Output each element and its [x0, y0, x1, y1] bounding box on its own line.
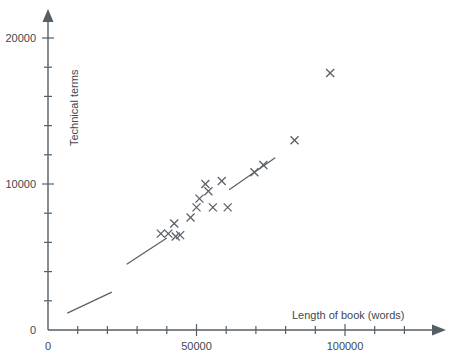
trend-line-segments	[67, 158, 275, 313]
axes-group	[43, 9, 447, 336]
trend-line	[67, 292, 112, 313]
data-point	[218, 177, 226, 185]
data-point	[204, 187, 212, 195]
data-point	[187, 214, 195, 222]
data-point	[224, 203, 232, 211]
y-tick-label: 20000	[5, 32, 36, 44]
y-tick-label: 10000	[5, 178, 36, 190]
x-tick-label: 50000	[181, 340, 212, 352]
data-point	[193, 203, 201, 211]
data-point	[195, 195, 203, 203]
y-axis-title: Technical terms	[68, 69, 80, 146]
y-tick-label: 0	[30, 324, 36, 336]
scatter-chart: 050000100000 01000020000 Length of book …	[0, 0, 453, 362]
data-point	[250, 168, 258, 176]
y-axis-arrow	[43, 9, 54, 22]
data-point	[209, 203, 217, 211]
data-point	[201, 180, 209, 188]
chart-canvas: 050000100000 01000020000 Length of book …	[0, 0, 453, 362]
data-point	[170, 219, 178, 227]
data-point	[291, 136, 299, 144]
x-axis-title: Length of book (words)	[292, 309, 405, 321]
data-point-markers	[157, 69, 334, 241]
x-tick-label: 100000	[327, 340, 364, 352]
data-point	[326, 69, 334, 77]
y-axis-tick-labels: 01000020000	[5, 32, 36, 336]
data-point	[164, 230, 172, 238]
data-point	[157, 230, 165, 238]
x-tick-label: 0	[45, 340, 51, 352]
trend-line	[127, 238, 167, 264]
data-point	[259, 161, 267, 169]
x-axis-tick-labels: 050000100000	[45, 340, 363, 352]
